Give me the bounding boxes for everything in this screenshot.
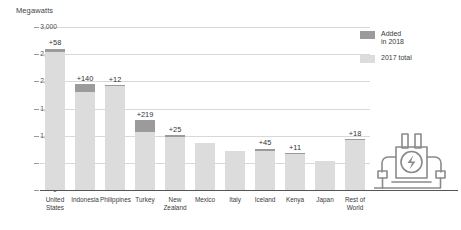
y-axis-tick-mark xyxy=(34,27,39,28)
bar-segment-added xyxy=(135,120,155,132)
x-axis-category-label: Kenya xyxy=(280,196,310,204)
bar-segment-total xyxy=(195,143,215,190)
bar-segment-added xyxy=(75,84,95,92)
bar-column xyxy=(135,120,155,190)
bar-series: +58+140+12+219+25+45+11+18 xyxy=(40,27,370,190)
legend-item-2017-total: 2017 total xyxy=(360,54,412,63)
bar-segment-total xyxy=(75,92,95,190)
bar-column xyxy=(105,85,125,190)
bar-column xyxy=(255,149,275,190)
x-axis-category-label: Turkey xyxy=(130,196,160,204)
bar-segment-total xyxy=(285,154,305,190)
x-axis-category-label: Japan xyxy=(310,196,340,204)
bar-segment-total xyxy=(165,137,185,190)
chart-legend: Added in 2018 2017 total xyxy=(360,30,412,70)
legend-label-added-in-2018: Added in 2018 xyxy=(381,30,404,47)
y-axis-tick-mark xyxy=(34,163,39,164)
geothermal-capacity-chart: Megawatts 3,0002,5002,0001,5001,0005000 … xyxy=(0,0,461,230)
bar-segment-total xyxy=(345,140,365,190)
bar-value-label: +58 xyxy=(49,38,62,47)
bar-segment-total xyxy=(315,161,335,190)
bar-column xyxy=(345,139,365,190)
bar-column xyxy=(285,153,305,190)
x-axis-category-label: Iceland xyxy=(250,196,280,204)
bar-segment-total xyxy=(105,86,125,190)
legend-swatch-2017-total xyxy=(360,55,375,63)
bar-value-label: +45 xyxy=(259,138,272,147)
x-axis-category-label: Rest of World xyxy=(340,196,370,212)
bar-column xyxy=(45,49,65,190)
bar-value-label: +12 xyxy=(109,75,122,84)
legend-label-2017-total: 2017 total xyxy=(381,54,412,62)
x-axis-category-label: Italy xyxy=(220,196,250,204)
bar-segment-total xyxy=(45,52,65,190)
x-axis-category-label: Indonesia xyxy=(70,196,100,204)
y-axis-tick-mark xyxy=(34,190,39,191)
bar-column xyxy=(225,151,245,190)
bar-column xyxy=(195,143,215,190)
power-plant-icon xyxy=(374,124,456,196)
x-axis-category-label: Philippines xyxy=(100,196,130,204)
x-axis-category-label: United States xyxy=(40,196,70,212)
y-axis-tick-mark xyxy=(34,109,39,110)
bar-column xyxy=(165,135,185,190)
bar-value-label: +219 xyxy=(137,110,154,119)
bar-segment-total xyxy=(135,132,155,190)
x-axis-categories: United StatesIndonesiaPhilippinesTurkeyN… xyxy=(40,196,370,224)
y-axis-tick-mark xyxy=(34,81,39,82)
bar-value-label: +18 xyxy=(349,129,362,138)
x-axis-category-label: Mexico xyxy=(190,196,220,204)
bar-value-label: +11 xyxy=(289,143,301,152)
bar-column xyxy=(75,84,95,190)
bar-segment-total xyxy=(255,151,275,190)
legend-swatch-added-in-2018 xyxy=(360,31,375,39)
bar-segment-total xyxy=(225,151,245,190)
y-axis-tick-mark xyxy=(34,54,39,55)
bar-column xyxy=(315,161,335,190)
bar-value-label: +140 xyxy=(77,74,94,83)
legend-item-added-in-2018: Added in 2018 xyxy=(360,30,412,47)
x-axis-category-label: New Zealand xyxy=(160,196,190,212)
y-axis-title: Megawatts xyxy=(16,6,53,15)
bar-value-label: +25 xyxy=(169,125,182,134)
y-axis-tick-mark xyxy=(34,136,39,137)
